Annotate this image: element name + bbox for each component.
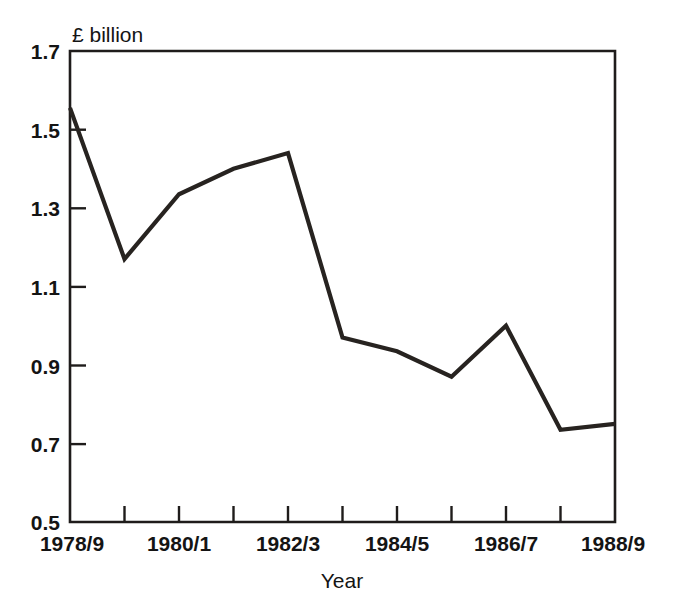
data-series-line <box>70 108 615 430</box>
chart-canvas: £ billion 1.7 1.5 1.3 1.1 0.9 0.7 0.5 <box>0 0 680 608</box>
x-axis-title: Year <box>321 569 363 592</box>
y-tick-label-1.7: 1.7 <box>31 40 60 63</box>
y-tick-label-1.3: 1.3 <box>31 197 60 220</box>
x-tick-label-1980-1: 1980/1 <box>147 532 212 555</box>
y-tick-label-0.7: 0.7 <box>31 433 60 456</box>
y-tick-label-0.5: 0.5 <box>31 511 61 534</box>
x-tick-label-1988-9: 1988/9 <box>581 532 645 555</box>
y-tick-label-1.5: 1.5 <box>31 119 61 142</box>
x-tick-marks <box>125 506 561 522</box>
x-tick-label-1986-7: 1986/7 <box>474 532 538 555</box>
y-tick-labels: 1.7 1.5 1.3 1.1 0.9 0.7 0.5 <box>31 40 61 534</box>
y-axis-unit-label: £ billion <box>72 23 143 46</box>
x-tick-label-1982-3: 1982/3 <box>256 532 320 555</box>
plot-frame <box>70 51 615 522</box>
y-tick-label-0.9: 0.9 <box>31 355 60 378</box>
x-tick-label-1978-9: 1978/9 <box>40 532 104 555</box>
y-tick-marks <box>70 130 86 444</box>
line-chart: £ billion 1.7 1.5 1.3 1.1 0.9 0.7 0.5 <box>0 0 680 608</box>
y-tick-label-1.1: 1.1 <box>31 276 61 299</box>
x-tick-label-1984-5: 1984/5 <box>365 532 430 555</box>
x-tick-labels: 1978/9 1980/1 1982/3 1984/5 1986/7 1988/… <box>40 532 645 555</box>
